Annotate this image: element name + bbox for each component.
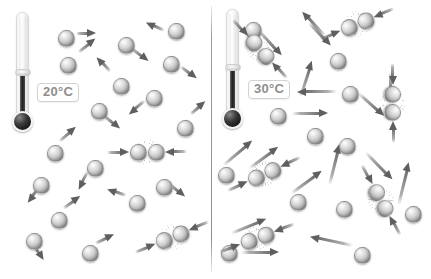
thermometer-mercury-column xyxy=(230,67,235,114)
molecule xyxy=(60,57,77,74)
molecule xyxy=(290,194,307,211)
thermometer-bulb xyxy=(222,108,243,129)
panel-divider xyxy=(211,6,212,272)
molecule xyxy=(82,245,99,262)
thermometer-bulb xyxy=(12,111,33,132)
molecule xyxy=(168,23,185,40)
molecule xyxy=(58,30,75,47)
molecule xyxy=(342,86,359,103)
molecule xyxy=(307,128,324,145)
thermometer-scale-nub xyxy=(15,69,31,76)
molecule xyxy=(156,179,173,196)
molecule xyxy=(87,160,104,177)
thermometer-cool xyxy=(10,12,36,137)
molecule xyxy=(51,212,68,229)
molecule xyxy=(354,247,371,264)
molecule xyxy=(405,206,422,223)
molecule xyxy=(384,86,401,103)
molecule xyxy=(91,103,108,120)
temperature-label-cool: 20°C xyxy=(37,83,79,102)
molecule xyxy=(130,144,147,161)
molecule xyxy=(129,195,146,212)
molecule xyxy=(148,144,165,161)
kinetic-theory-figure: 20°C 30°C xyxy=(0,0,431,279)
thermometer-scale-nub xyxy=(225,64,241,71)
molecule xyxy=(146,90,163,107)
molecule xyxy=(177,120,194,137)
molecule xyxy=(336,201,353,218)
temperature-label-warm: 30°C xyxy=(248,80,290,99)
panel-cool: 20°C xyxy=(0,0,211,279)
molecule xyxy=(26,233,43,250)
molecule xyxy=(47,145,64,162)
molecule xyxy=(33,177,50,194)
molecule xyxy=(218,167,235,184)
molecule xyxy=(118,37,135,54)
molecule xyxy=(113,78,130,95)
molecule xyxy=(339,138,356,155)
molecule xyxy=(270,108,287,125)
panel-warm: 30°C xyxy=(213,0,431,279)
molecule xyxy=(163,56,180,73)
molecule xyxy=(330,53,347,70)
molecule xyxy=(384,104,401,121)
